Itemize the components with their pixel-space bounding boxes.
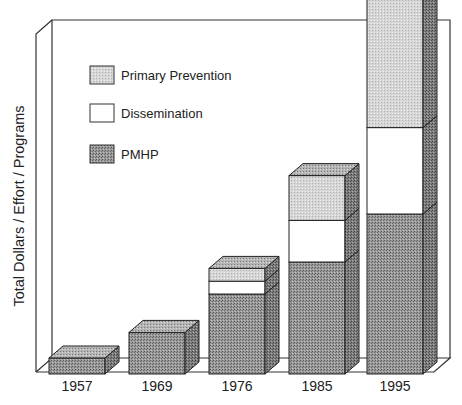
x-tick-label: 1985 [301,378,332,394]
bar-segment-dissemination [289,220,345,262]
legend-swatch [90,145,114,163]
bar-segment-pmhp [289,262,345,374]
bar-segment-primary-prevention [209,268,265,281]
bar-side [345,250,359,374]
x-tick-label: 1995 [379,378,410,394]
bar-side [423,116,437,214]
bar-1957 [49,346,119,374]
legend-label: PMHP [121,147,159,162]
legend-item-pmhp: PMHP [90,145,159,163]
legend: Primary PreventionDisseminationPMHP [90,66,232,163]
bar-side [265,282,279,374]
bar-segment-primary-prevention [289,176,345,221]
bar-side [423,0,437,128]
bar-segment-primary-prevention [367,0,423,128]
x-tick-label: 1957 [61,378,92,394]
bar-segment-pmhp [129,332,185,374]
legend-item-primary-prevention: Primary Prevention [90,66,232,84]
bar-side [423,202,437,374]
x-axis-ticks: 19571969197619851995 [61,378,410,394]
stacked-3d-bar-chart: Primary PreventionDisseminationPMHP Tota… [0,0,462,405]
bar-segment-pmhp [209,294,265,374]
bar-1995 [367,0,437,374]
bar-segment-dissemination [209,281,265,294]
legend-label: Dissemination [121,106,203,121]
bars-group [49,0,437,374]
bar-segment-pmhp [367,214,423,374]
legend-item-dissemination: Dissemination [90,104,203,122]
y-axis-label: Total Dollars / Effort / Programs [11,105,27,306]
x-tick-label: 1976 [221,378,252,394]
legend-label: Primary Prevention [121,68,232,83]
bar-1985 [289,164,359,374]
bar-segment-pmhp [49,358,105,374]
legend-swatch [90,104,114,122]
legend-swatch [90,66,114,84]
side-wall [36,20,52,372]
bar-segment-dissemination [367,128,423,214]
x-tick-label: 1969 [141,378,172,394]
bar-1969 [129,320,199,374]
bar-1976 [209,256,279,374]
